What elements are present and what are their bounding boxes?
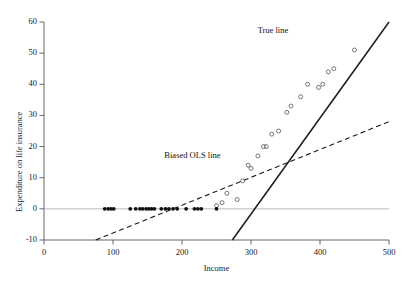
data-point-open: [270, 132, 274, 136]
data-point-filled: [184, 207, 188, 211]
data-point-open: [256, 154, 260, 158]
true-line: [232, 22, 389, 240]
data-point-open: [241, 179, 245, 183]
y-axis-title: Expenditure on life insurance: [14, 112, 24, 212]
data-point-filled: [199, 207, 203, 211]
data-point-filled: [159, 207, 163, 211]
data-point-filled: [128, 207, 132, 211]
data-point-filled: [215, 207, 219, 211]
x-tick-label: 400: [300, 247, 340, 257]
data-point-open: [235, 198, 239, 202]
data-point-open: [353, 48, 357, 52]
data-point-open: [289, 104, 293, 108]
y-tick-label: -10: [26, 234, 37, 244]
data-point-open: [249, 166, 253, 170]
x-axis-title: Income: [24, 263, 406, 273]
data-point-open: [299, 95, 303, 99]
data-point-open: [332, 67, 336, 71]
data-point-open: [317, 85, 321, 89]
x-tick-label: 500: [369, 247, 406, 257]
y-tick-label: 30: [29, 109, 38, 119]
x-tick-label: 300: [231, 247, 271, 257]
y-tick-label: 0: [33, 203, 37, 213]
data-point-open: [326, 70, 330, 74]
data-point-open: [220, 201, 224, 205]
data-point-filled: [196, 207, 200, 211]
data-point-filled: [167, 207, 171, 211]
y-tick-label: 50: [29, 47, 38, 57]
biased-ols-line: [96, 122, 389, 240]
data-point-open: [277, 129, 281, 133]
data-point-filled: [141, 207, 145, 211]
data-point-open: [225, 191, 229, 195]
data-point-open: [264, 145, 268, 149]
data-point-filled: [103, 207, 107, 211]
chart-canvas: [0, 0, 406, 284]
x-tick-label: 200: [162, 247, 202, 257]
x-tick-label: 100: [93, 247, 133, 257]
series-open-circles: [215, 48, 357, 208]
y-tick-label: 10: [29, 172, 38, 182]
data-point-open: [321, 82, 325, 86]
y-tick-label: 40: [29, 78, 38, 88]
data-point-open: [306, 82, 310, 86]
y-tick-label: 20: [29, 141, 38, 151]
data-point-filled: [153, 207, 157, 211]
y-tick-label: 60: [29, 16, 38, 26]
annotation-true-line: True line: [258, 25, 289, 35]
data-point-filled: [164, 207, 168, 211]
data-point-filled: [134, 207, 138, 211]
annotation-biased-ols-line: Biased OLS line: [164, 150, 220, 160]
x-tick-label: 0: [24, 247, 64, 257]
data-point-filled: [171, 207, 175, 211]
axes: [40, 22, 390, 245]
data-point-filled: [193, 207, 197, 211]
data-point-filled: [112, 207, 116, 211]
data-point-open: [285, 110, 289, 114]
chart-figure: -100102030405060 0100200300400500 Expend…: [0, 0, 406, 284]
data-point-filled: [175, 207, 179, 211]
